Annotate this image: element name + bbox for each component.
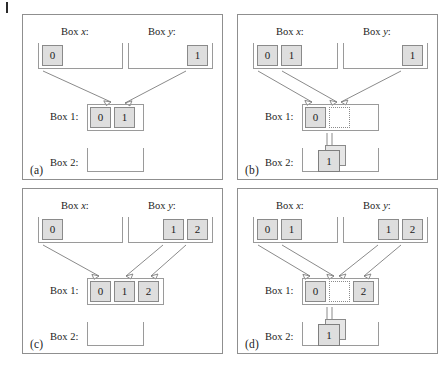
panel-d-tag: (d)	[245, 339, 259, 351]
panel-b-box2-stack: 1	[318, 145, 348, 172]
panel-b-tag: (b)	[245, 165, 259, 177]
panel-c-box1-container: 0 1 2	[87, 278, 164, 305]
panel-c-box1-label: Box 1:	[50, 286, 78, 297]
panel-d-box2-label: Box 2:	[265, 332, 293, 343]
panel-c-box1-cell-2: 2	[138, 281, 159, 302]
panel-b-box2-label: Box 2:	[265, 158, 293, 169]
panel-a: Box x: Box y: 0 1 Box 1: 0 1 Box 2: (a)	[22, 14, 223, 180]
panel-a-box1-cell-1: 1	[114, 107, 135, 128]
panel-b: Box x: Box y: 0 1 1 Box 1: 0 Box 2:	[237, 14, 438, 180]
panel-c-box1-cell-0: 0	[90, 281, 111, 302]
panel-c-box2-label: Box 2:	[50, 332, 78, 343]
panel-a-box2-container	[87, 148, 144, 172]
panel-d-box2-stack-front-card: 1	[318, 324, 340, 346]
panel-c-tag: (c)	[30, 339, 43, 351]
figure-container: Box x: Box y: 0 1 Box 1: 0 1 Box 2: (a) …	[22, 14, 438, 354]
panel-c-box2-container	[87, 322, 144, 346]
panel-d-box2-stack: 1	[318, 319, 348, 346]
page-margin-tick	[6, 2, 8, 13]
panel-c: Box x: Box y: 0 1 2 Box 1: 0 1 2 Box 2: …	[22, 188, 223, 354]
panel-c-box1-cell-1: 1	[114, 281, 135, 302]
panel-a-tag: (a)	[30, 165, 43, 177]
panel-a-box1-container: 0 1	[87, 104, 144, 131]
panel-d: Box x: Box y: 0 1 1 2 Box 1: 0 2	[237, 188, 438, 354]
panel-b-box2-stack-front-card: 1	[318, 150, 340, 172]
panel-a-box1-label: Box 1:	[50, 112, 78, 123]
panel-a-box1-cell-0: 0	[90, 107, 111, 128]
panel-a-box2-label: Box 2:	[50, 158, 78, 169]
